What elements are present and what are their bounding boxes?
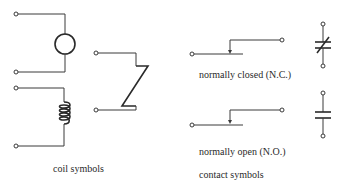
zigzag-coil-icon	[94, 51, 148, 112]
no-contact-ladder-icon	[315, 91, 331, 138]
inductor-coil-icon	[14, 86, 70, 148]
nc-contact-icon	[190, 38, 284, 56]
nc-contact-label: normally closed (N.C.)	[199, 70, 291, 80]
diagram-canvas	[0, 0, 340, 188]
coil-symbols-caption: coil symbols	[53, 164, 104, 174]
contact-symbols-caption: contact symbols	[199, 170, 264, 180]
no-contact-icon	[190, 108, 284, 127]
nc-contact-ladder-icon	[315, 22, 331, 68]
no-contact-label: normally open (N.O.)	[199, 147, 286, 157]
circle-coil-icon	[14, 12, 75, 74]
